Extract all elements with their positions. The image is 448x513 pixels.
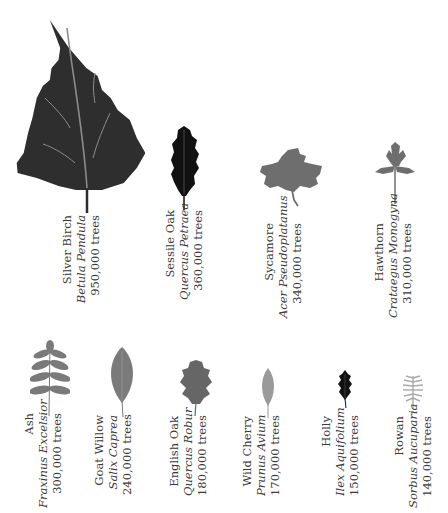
willow-leaf-icon — [105, 345, 139, 420]
tree-count: 150,000 trees — [347, 416, 361, 496]
common-name: Wild Cherry — [240, 416, 254, 496]
sessile-oak-leaf-icon — [168, 124, 202, 214]
common-name: Silver Birch — [60, 215, 74, 305]
scientific-name: Betula Pendula — [74, 215, 88, 305]
scientific-name: Quercus Robur — [181, 416, 195, 496]
tree-label-ash: Ash Fraxinus Excelsior 300,000 trees — [22, 413, 64, 508]
tree-label-goat-willow: Goat Willow Salix Caprea 240,000 trees — [92, 415, 134, 495]
holly-leaf-icon — [336, 370, 354, 410]
cherry-leaf-icon — [258, 366, 278, 420]
tree-count: 140,000 trees — [420, 416, 434, 508]
tree-label-sessile-oak: Sessile Oak Quercus Petraea 360,000 tree… — [163, 210, 205, 300]
scientific-name: Sorbus Aucuparia — [406, 416, 420, 508]
scientific-name: Acer Pseudoplatanus — [276, 223, 290, 318]
tree-count: 180,000 trees — [195, 416, 209, 496]
tree-label-rowan: Rowan Sorbus Aucuparia 140,000 trees — [392, 416, 434, 508]
tree-count: 300,000 trees — [50, 413, 64, 508]
scientific-name: Ilex Aquifolium — [333, 416, 347, 496]
tree-label-hawthorn: Hawthorn Crataegus Monogyna 310,000 tree… — [372, 223, 414, 318]
tree-count: 170,000 trees — [268, 416, 282, 496]
scientific-name: Salix Caprea — [106, 415, 120, 495]
tree-label-english-oak: English Oak Quercus Robur 180,000 trees — [167, 416, 209, 496]
common-name: Rowan — [392, 416, 406, 508]
common-name: Holly — [319, 416, 333, 496]
tree-label-holly: Holly Ilex Aquifolium 150,000 trees — [319, 416, 361, 496]
tree-label-silver-birch: Silver Birch Betula Pendula 950,000 tree… — [60, 215, 102, 305]
tree-count: 950,000 trees — [88, 215, 102, 305]
tree-leaf-infographic: Silver Birch Betula Pendula 950,000 tree… — [0, 0, 448, 513]
tree-count: 360,000 trees — [191, 210, 205, 300]
tree-count: 340,000 trees — [290, 223, 304, 318]
common-name: Ash — [22, 413, 36, 508]
birch-leaf-icon — [15, 18, 145, 218]
sycamore-leaf-icon — [256, 140, 328, 220]
scientific-name: Quercus Petraea — [177, 210, 191, 300]
common-name: Sycamore — [262, 223, 276, 318]
scientific-name: Crataegus Monogyna — [386, 223, 400, 318]
common-name: Goat Willow — [92, 415, 106, 495]
tree-count: 310,000 trees — [400, 223, 414, 318]
scientific-name: Prunus Avium — [254, 416, 268, 496]
scientific-name: Fraxinus Excelsior — [36, 413, 50, 508]
common-name: Hawthorn — [372, 223, 386, 318]
tree-count: 240,000 trees — [120, 415, 134, 495]
tree-label-sycamore: Sycamore Acer Pseudoplatanus 340,000 tre… — [262, 223, 304, 318]
common-name: English Oak — [167, 416, 181, 496]
tree-label-wild-cherry: Wild Cherry Prunus Avium 170,000 trees — [240, 416, 282, 496]
common-name: Sessile Oak — [163, 210, 177, 300]
